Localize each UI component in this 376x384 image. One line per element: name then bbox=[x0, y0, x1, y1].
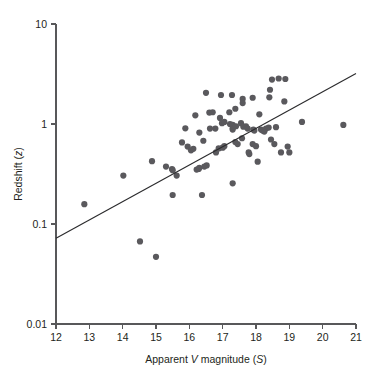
x-tick-label: 14 bbox=[117, 331, 129, 343]
x-axis-title-text: Apparent V magnitude (S) bbox=[145, 353, 266, 365]
data-points bbox=[81, 75, 346, 259]
fit-line bbox=[56, 73, 356, 238]
x-tick-label: 12 bbox=[50, 331, 62, 343]
y-tick-label: 1 bbox=[41, 118, 47, 130]
y-axis-title: Redshift (z) bbox=[12, 147, 24, 201]
data-point bbox=[285, 143, 291, 149]
title-run: ) bbox=[12, 147, 24, 151]
data-point bbox=[203, 90, 209, 96]
data-point bbox=[278, 149, 284, 155]
data-point bbox=[266, 94, 272, 100]
title-run: ) bbox=[263, 353, 267, 365]
data-point bbox=[182, 125, 188, 131]
data-point bbox=[271, 141, 277, 147]
data-point bbox=[226, 109, 232, 115]
x-tick-label: 13 bbox=[83, 331, 95, 343]
data-point bbox=[276, 75, 282, 81]
data-point bbox=[255, 159, 261, 165]
data-point bbox=[235, 141, 241, 147]
data-point bbox=[170, 192, 176, 198]
data-point bbox=[204, 162, 210, 168]
data-point bbox=[267, 87, 273, 93]
data-point bbox=[299, 119, 305, 125]
data-point bbox=[281, 98, 287, 104]
data-point bbox=[199, 192, 205, 198]
data-point bbox=[221, 119, 227, 125]
data-point bbox=[230, 180, 236, 186]
x-axis-title: Apparent V magnitude (S) bbox=[145, 353, 266, 365]
x-tick-label: 17 bbox=[217, 331, 229, 343]
x-tick-label: 18 bbox=[250, 331, 262, 343]
scatter-chart-figure: 12131415161718192021 0.010.1110 Apparent… bbox=[0, 0, 376, 384]
x-axis-tick-labels: 12131415161718192021 bbox=[50, 331, 362, 343]
data-point bbox=[196, 130, 202, 136]
data-point bbox=[212, 125, 218, 131]
data-point bbox=[250, 95, 256, 101]
title-run: Apparent bbox=[145, 353, 191, 365]
data-point bbox=[256, 111, 262, 117]
data-point bbox=[232, 106, 238, 112]
x-tick-label: 21 bbox=[350, 331, 362, 343]
title-run: magnitude ( bbox=[198, 353, 257, 365]
data-point bbox=[229, 92, 235, 98]
data-point bbox=[266, 125, 272, 131]
data-point bbox=[286, 149, 292, 155]
data-point bbox=[340, 122, 346, 128]
data-point bbox=[120, 172, 126, 178]
data-point bbox=[269, 77, 275, 83]
data-point bbox=[190, 146, 196, 152]
data-point bbox=[218, 92, 224, 98]
x-tick-label: 19 bbox=[283, 331, 295, 343]
data-point bbox=[81, 201, 87, 207]
data-point bbox=[240, 100, 246, 106]
data-point bbox=[245, 125, 251, 131]
data-point bbox=[149, 158, 155, 164]
x-tick-label: 15 bbox=[150, 331, 162, 343]
x-tick-label: 16 bbox=[183, 331, 195, 343]
data-point bbox=[163, 164, 169, 170]
regression-line bbox=[56, 73, 356, 238]
data-point bbox=[207, 125, 213, 131]
data-point bbox=[273, 124, 279, 130]
data-point bbox=[179, 139, 185, 145]
data-point bbox=[253, 143, 259, 149]
y-axis-title-text: Redshift (z) bbox=[12, 147, 24, 201]
data-point bbox=[200, 138, 206, 144]
data-point bbox=[137, 238, 143, 244]
data-point bbox=[153, 254, 159, 260]
title-run: S bbox=[256, 353, 263, 365]
data-point bbox=[282, 76, 288, 82]
data-point bbox=[246, 151, 252, 157]
x-tick-label: 20 bbox=[317, 331, 329, 343]
axes bbox=[56, 24, 356, 324]
title-run: Redshift ( bbox=[12, 155, 24, 200]
y-axis-tick-labels: 0.010.1110 bbox=[27, 18, 48, 330]
data-point bbox=[192, 112, 198, 118]
y-tick-label: 0.1 bbox=[32, 218, 47, 230]
y-tick-label: 0.01 bbox=[27, 318, 48, 330]
x-axis-ticks bbox=[56, 324, 356, 329]
axis-spine bbox=[56, 24, 356, 324]
y-axis-ticks bbox=[51, 24, 56, 324]
y-tick-label: 10 bbox=[35, 18, 47, 30]
chart-canvas: 12131415161718192021 0.010.1110 Apparent… bbox=[0, 0, 376, 384]
data-point bbox=[210, 109, 216, 115]
